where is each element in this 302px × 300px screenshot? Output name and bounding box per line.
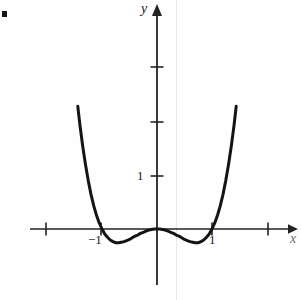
y-axis-label: y [141,2,147,16]
x-axis-label: x [290,232,296,246]
x-tick-label-minus-1: −1 [88,233,102,246]
plot-area [0,0,302,300]
figure-canvas: −1 1 1 y x [0,0,302,300]
y-axis-arrowhead [152,4,162,16]
y-tick-label-1: 1 [137,169,144,182]
x-tick-label-1: 1 [209,233,216,246]
